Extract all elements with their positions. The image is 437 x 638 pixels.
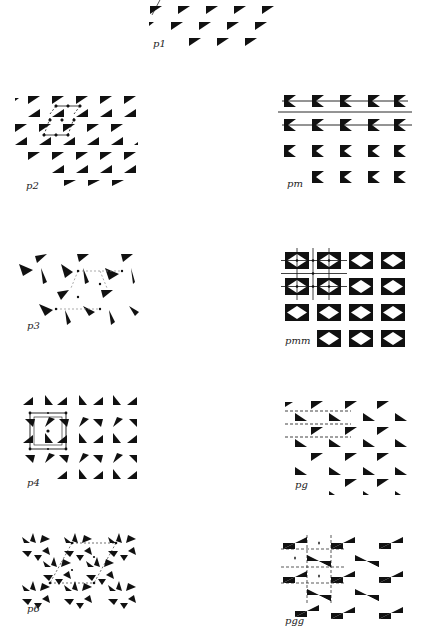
p1-pattern xyxy=(150,0,280,50)
label-pg: pg xyxy=(295,479,308,490)
label-p6: p6 xyxy=(27,603,40,614)
label-pgg: pgg xyxy=(285,615,304,626)
label-p4: p4 xyxy=(27,477,40,488)
label-p1: p1 xyxy=(153,38,166,49)
label-pm: pm xyxy=(287,178,303,189)
p2-pattern xyxy=(20,90,150,200)
p6-pattern xyxy=(22,533,152,613)
label-p3: p3 xyxy=(27,320,40,331)
pgg-pattern xyxy=(285,533,415,623)
label-p2: p2 xyxy=(26,180,39,191)
label-pmm: pmm xyxy=(285,335,310,346)
p4-pattern xyxy=(23,395,153,485)
p3-pattern xyxy=(25,250,155,330)
